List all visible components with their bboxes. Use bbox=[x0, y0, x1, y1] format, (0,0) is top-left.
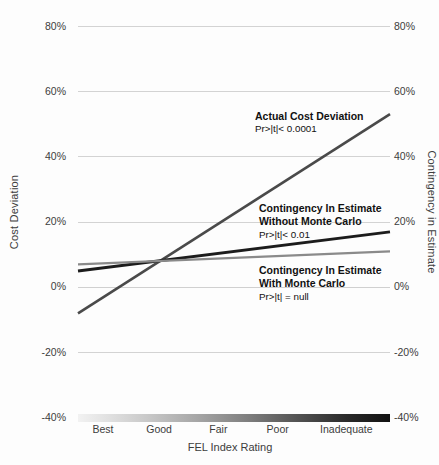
y-tick-right-neg20: -20% bbox=[394, 346, 439, 358]
annotation-actual-cost-deviation: Actual Cost Deviation Pr>|t|< 0.0001 bbox=[255, 110, 364, 136]
y-tick-left-neg40: -40% bbox=[18, 411, 66, 423]
annotation-title-line1: Contingency In Estimate bbox=[259, 202, 382, 215]
y-tick-right-40: 40% bbox=[394, 150, 439, 162]
x-axis-title: FEL Index Rating bbox=[80, 441, 380, 453]
y-tick-left-80: 80% bbox=[18, 20, 66, 32]
annotation-title-line2: Without Monte Carlo bbox=[259, 215, 382, 228]
annotation-significance: Pr>|t|< 0.01 bbox=[259, 229, 382, 242]
y-tick-right-60: 60% bbox=[394, 85, 439, 97]
y-tick-left-40: 40% bbox=[18, 150, 66, 162]
fel-index-tick-labels: BestGoodFairPoorInadequate bbox=[78, 423, 390, 439]
annotation-contingency-with-monte-carlo: Contingency In Estimate With Monte Carlo… bbox=[259, 264, 382, 303]
y-axis-title-left: Cost Deviation bbox=[8, 152, 20, 272]
series-line-2 bbox=[78, 251, 390, 264]
y-tick-right-0: 0% bbox=[394, 280, 439, 292]
annotation-contingency-without-monte-carlo: Contingency In Estimate Without Monte Ca… bbox=[259, 202, 382, 241]
y-tick-left-neg20: -20% bbox=[18, 346, 66, 358]
fel-label-fair: Fair bbox=[209, 423, 227, 435]
annotation-significance: Pr>|t|< 0.0001 bbox=[255, 123, 364, 136]
annotation-title-line2: With Monte Carlo bbox=[259, 277, 382, 290]
y-tick-left-60: 60% bbox=[18, 85, 66, 97]
y-tick-left-20: 20% bbox=[18, 215, 66, 227]
y-tick-right-20: 20% bbox=[394, 215, 439, 227]
y-tick-right-80: 80% bbox=[394, 20, 439, 32]
fel-label-inadequate: Inadequate bbox=[320, 423, 373, 435]
chart-container: Cost Deviation Contingency in Estimate 8… bbox=[0, 0, 439, 465]
y-tick-right-neg40: -40% bbox=[394, 411, 439, 423]
annotation-significance: Pr>|t| = null bbox=[259, 291, 382, 304]
annotation-title: Actual Cost Deviation bbox=[255, 110, 364, 123]
fel-label-poor: Poor bbox=[267, 423, 289, 435]
annotation-title-line1: Contingency In Estimate bbox=[259, 264, 382, 277]
y-tick-left-0: 0% bbox=[18, 280, 66, 292]
fel-label-best: Best bbox=[92, 423, 113, 435]
fel-label-good: Good bbox=[146, 423, 172, 435]
fel-index-gradient-bar bbox=[78, 414, 390, 422]
